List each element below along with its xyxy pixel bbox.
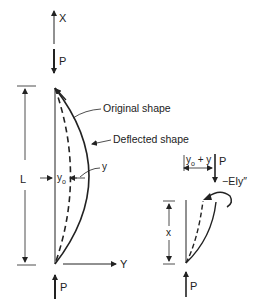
top-load-label: P (59, 55, 66, 67)
fbd-load-label: P (219, 155, 226, 167)
top-vertex-arrow (56, 89, 66, 100)
y-label-leader (80, 168, 100, 177)
deflected-shape-leader (92, 140, 111, 144)
yo-label: yo (57, 172, 66, 185)
y-deflection-label: y (102, 161, 107, 172)
deflected-shape-label: Deflected shape (113, 133, 189, 145)
length-label: L (20, 173, 26, 185)
fbd-moment-label: −EIy″ (222, 175, 247, 187)
x-axis-label: X (59, 12, 67, 24)
fbd-offset-label: yo + y (186, 154, 211, 167)
y-axis-label: Y (120, 258, 128, 270)
original-shape-leader (73, 109, 101, 118)
bottom-load-label: P (60, 281, 67, 293)
original-shape-label: Original shape (103, 102, 171, 114)
column-buckling-diagram: X P L yo y Original shape Deflected shap… (0, 0, 259, 308)
fbd-moment-arrowhead (203, 193, 212, 200)
fbd-height-label: x (166, 227, 171, 238)
fbd-bottom-load-label: P (190, 280, 197, 292)
